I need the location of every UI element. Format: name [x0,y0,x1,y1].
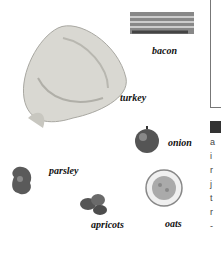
parsley-image [10,165,36,197]
sidebar-box [210,0,221,108]
edge-line: i [210,149,215,163]
onion-image [133,126,161,154]
edge-text: a i r j t r - [210,135,215,233]
edge-line: r [210,163,215,177]
label-apricots: apricots [91,219,124,230]
bacon-image [128,8,198,38]
label-onion: onion [168,137,192,148]
edge-line: a [210,135,215,149]
section-marker [210,121,221,133]
edge-line: - [210,219,215,233]
label-oats: oats [165,218,182,229]
turkey-image [18,18,128,130]
label-bacon: bacon [152,45,177,56]
oats-image [144,168,184,208]
apricots-image [78,192,110,216]
label-turkey: turkey [120,92,146,103]
edge-line: t [210,191,215,205]
label-parsley: parsley [49,165,78,176]
edge-line: r [210,205,215,219]
edge-line: j [210,177,215,191]
